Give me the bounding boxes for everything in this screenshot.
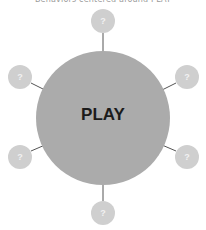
node-bottom-left: ? bbox=[8, 145, 32, 169]
question-icon: ? bbox=[100, 208, 106, 218]
question-icon: ? bbox=[17, 72, 23, 82]
node-top: ? bbox=[91, 9, 115, 33]
connector-bottom-right bbox=[162, 145, 176, 151]
node-bottom: ? bbox=[91, 201, 115, 225]
question-icon: ? bbox=[17, 152, 23, 162]
question-icon: ? bbox=[184, 72, 190, 82]
question-icon: ? bbox=[184, 152, 190, 162]
question-icon: ? bbox=[100, 16, 106, 26]
node-bottom-right: ? bbox=[175, 145, 199, 169]
connector-top-right bbox=[162, 83, 176, 90]
center-label: PLAY bbox=[53, 105, 153, 125]
node-top-right: ? bbox=[175, 65, 199, 89]
node-top-left: ? bbox=[8, 65, 32, 89]
